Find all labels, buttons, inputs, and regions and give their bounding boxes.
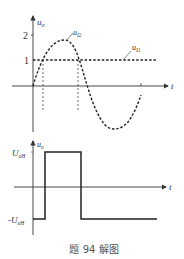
bottom-y-axis-label: uo xyxy=(37,140,44,150)
u-i1-label: uI1 xyxy=(132,43,141,53)
u-i2-sine-curve xyxy=(33,40,141,129)
top-plot: uo t 2 1 uI2 uI1 xyxy=(12,16,174,132)
u-i2-label: uI2 xyxy=(73,28,82,38)
top-x-axis-label: t xyxy=(171,81,174,91)
u-i1-pointer xyxy=(124,51,131,59)
neg-u-oh-label: -UoH xyxy=(8,215,25,226)
u-oh-label: UoH xyxy=(12,148,26,159)
top-y-tick-1: 1 xyxy=(24,55,29,66)
top-y-axis-label: uo xyxy=(37,17,45,28)
u-i2-pointer xyxy=(66,33,73,41)
top-y-tick-2: 2 xyxy=(23,30,28,41)
output-square-wave xyxy=(33,152,157,219)
comparator-waveform-diagram: uo t 2 1 uI2 uI1 uo t UoH -UoH xyxy=(0,0,184,259)
bottom-x-axis-label: t xyxy=(169,182,172,192)
figure-caption: 题 94 解图 xyxy=(69,243,118,255)
bottom-plot: uo t UoH -UoH xyxy=(8,140,172,235)
